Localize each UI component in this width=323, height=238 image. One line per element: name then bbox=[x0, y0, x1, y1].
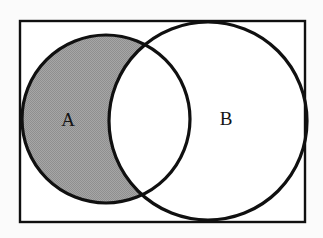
set-b-label: B bbox=[220, 108, 233, 129]
venn-diagram-figure: A B bbox=[0, 0, 323, 238]
set-a-label: A bbox=[61, 109, 75, 130]
venn-diagram-canvas: A B bbox=[0, 0, 323, 238]
